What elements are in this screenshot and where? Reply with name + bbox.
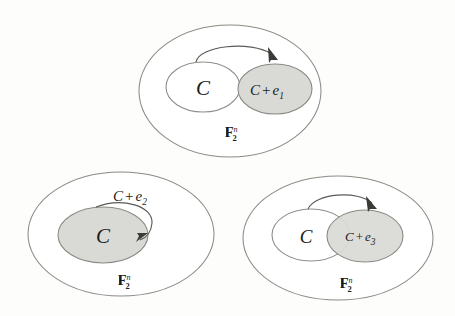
code-label-bottom-right: C	[300, 226, 313, 247]
panel-top: C C+e1 Fn2	[139, 25, 321, 157]
ambient-space-label-top-sub: 2	[233, 133, 237, 143]
coset-label-bl-C: C	[113, 188, 124, 204]
panel-bottom-right: C C+e3 Fn2	[243, 176, 433, 300]
coset-label-bl-index: 2	[142, 197, 147, 207]
coset-label-br-plus: +	[356, 229, 363, 244]
coset-label-top-index: 1	[279, 91, 284, 101]
coset-diagram: C C+e1 Fn2 C C+e2 Fn2	[0, 0, 455, 316]
coset-label-br-C: C	[345, 229, 354, 244]
ambient-space-label-bl-sub: 2	[126, 281, 130, 291]
code-label-bottom-left: C	[96, 224, 111, 248]
coset-label-top-plus: +	[262, 82, 270, 98]
ambient-space-label-br-sub: 2	[348, 284, 352, 294]
coset-label-br-index: 3	[370, 237, 376, 247]
coset-label-top-C: C	[250, 82, 261, 98]
figure-root: C C+e1 Fn2 C C+e2 Fn2	[0, 0, 455, 316]
code-label-top: C	[196, 76, 211, 100]
coset-label-bl-plus: +	[125, 188, 133, 204]
panel-bottom-left: C C+e2 Fn2	[28, 172, 214, 296]
